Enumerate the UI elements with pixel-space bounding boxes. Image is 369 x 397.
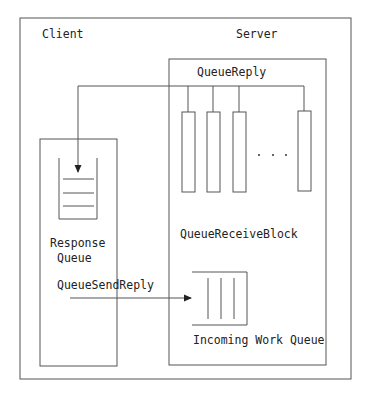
queue-receive-block-label: QueueReceiveBlock: [180, 227, 298, 241]
incoming-work-queue-label: Incoming Work Queue: [193, 333, 325, 347]
receive-block-bar: [298, 111, 311, 191]
queue-send-reply-label: QueueSendReply: [57, 278, 154, 292]
ellipsis-dots: [258, 154, 287, 156]
response-queue-label-line2: Queue: [57, 251, 92, 265]
queue-receive-block-bars: [182, 111, 311, 192]
client-server-queue-diagram: Client Server Response Queue QueueReply …: [0, 0, 369, 397]
client-label: Client: [42, 27, 84, 41]
response-queue-label-line1: Response: [50, 236, 105, 250]
queue-reply-connector: [78, 86, 304, 172]
receive-block-bar: [233, 112, 246, 192]
outer-frame: [20, 18, 351, 379]
receive-block-bar: [207, 112, 220, 192]
server-label: Server: [236, 27, 278, 41]
receive-block-bar: [182, 112, 195, 192]
queue-reply-label: QueueReply: [197, 65, 266, 79]
incoming-work-queue-icon: [192, 272, 247, 325]
